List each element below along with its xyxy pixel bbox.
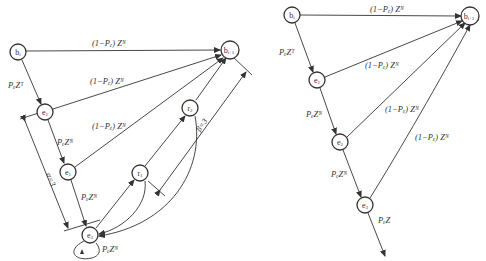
- edge-r1-to-r2: [145, 116, 185, 166]
- edge-r2-to-bnext: [196, 58, 226, 100]
- node-e3: e3: [82, 227, 98, 243]
- node-e1-top: e1: [37, 104, 53, 120]
- edge-r-e2-to-bnext: [347, 23, 465, 137]
- label-b-to-bnext: (1−Pₑ) Zᴺ: [92, 38, 126, 48]
- left-diagram: bi bi+1 e1 e1 e3 r1 r2 (1−Pₑ) Zᴺ PₑZᵀ (: [7, 38, 252, 259]
- edge-r1-to-e3: [99, 181, 145, 234]
- label-e1-to-bnext: (1−Pₑ) Zᴺ: [90, 76, 124, 86]
- self-loop-arrowhead: [80, 249, 84, 254]
- label-b-to-e1: PₑZᵀ: [7, 80, 24, 90]
- edge-r-b-to-bnext: [300, 15, 461, 16]
- label-r-b-to-bnext: (1−Pₑ) Zᴺ: [370, 4, 404, 14]
- label-r-e2-to-e3: PₑZᴺ: [330, 169, 347, 179]
- edge-e1mid-to-bnext: [75, 58, 223, 167]
- edge-b-to-e1: [22, 60, 41, 104]
- alpha-annotation: α=3: [44, 171, 57, 187]
- label-r-e1-to-bnext: (1−Pₑ) Zᴺ: [365, 60, 399, 70]
- node-r-e2: e2: [332, 134, 348, 150]
- node-r1: r1: [132, 165, 148, 181]
- edge-r-e1-to-e2: [320, 88, 336, 134]
- edge-r-b-to-e1: [295, 23, 313, 72]
- right-diagram: bi bi+1 e1 e2 e3 (1−Pₑ) Zᴺ PₑZᵀ (1−Pₑ) Z…: [278, 4, 479, 256]
- label-r-e3-out: PₑZ: [377, 215, 390, 225]
- node-b-i-plus-1: bi+1: [221, 41, 239, 59]
- node-r2: r2: [182, 100, 198, 116]
- label-r-e3-to-bnext: (1−Pₑ) Zᴺ: [415, 132, 449, 142]
- label-e1mid-to-e3: PₑZᴺ: [80, 192, 97, 202]
- node-e1-mid: e1: [60, 164, 76, 180]
- state-transition-diagrams: bi bi+1 e1 e1 e3 r1 r2 (1−Pₑ) Zᴺ PₑZᵀ (: [0, 0, 486, 261]
- label-r-b-to-e1: PₑZᵀ: [278, 47, 295, 57]
- self-loop-e3: [74, 241, 99, 259]
- edge-e1mid-to-e3: [71, 180, 86, 226]
- edge-e1-to-bnext: [53, 55, 221, 109]
- label-r-e1-to-e2: PₑZᴺ: [305, 109, 322, 119]
- label-e3-self: PₑZᴺ: [101, 244, 118, 254]
- node-r-b-i-plus-1: bi+1: [461, 7, 479, 25]
- node-r-e1: e1: [309, 72, 325, 88]
- edge-b-to-bnext: [26, 50, 220, 51]
- beta-tick-bottom: [148, 181, 165, 196]
- node-r-b-i: bi: [284, 7, 300, 23]
- label-e1mid-to-bnext: (1−Pₑ) Zᴺ: [92, 121, 126, 131]
- label-r-e2-to-bnext: (1−Pₑ) Zᴺ: [385, 104, 419, 114]
- label-e1-to-e1mid: PₑZᴺ: [56, 137, 73, 147]
- node-r-e3: e3: [357, 197, 373, 213]
- edge-e3-to-r1: [96, 180, 134, 228]
- beta-tick-top: [233, 57, 252, 75]
- node-b-i: bi: [10, 44, 26, 60]
